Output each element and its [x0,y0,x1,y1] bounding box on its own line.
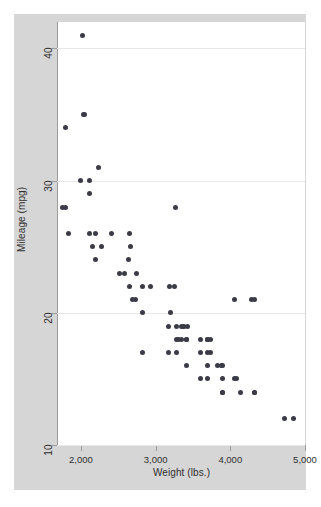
gridline-y-40 [57,48,305,49]
scatter-point [87,178,92,183]
gridline-y-30 [57,181,305,182]
x-tick-3000 [156,446,157,451]
y-axis-line [57,22,58,446]
graph-region: 10203040 2,0003,0004,0005,000 Mileage (m… [14,14,306,490]
x-tick-label-5000: 5,000 [293,454,317,465]
y-tick-label-20: 20 [43,312,54,346]
x-tick-label-2000: 2,000 [69,454,93,465]
y-tick-label-30: 30 [43,180,54,214]
scatter-point [174,350,179,355]
scatter-point [205,363,210,368]
scatter-point [173,205,178,210]
scatter-point [127,231,132,236]
scatter-point [167,284,172,289]
x-tick-label-4000: 4,000 [218,454,242,465]
y-tick-label-10: 10 [43,445,54,479]
x-tick-label-3000: 3,000 [144,454,168,465]
x-tick-5000 [305,446,306,451]
scatter-point [109,231,114,236]
scatter-point [198,350,203,355]
y-axis-title: Mileage (mpg) [16,187,27,252]
scatter-point [87,191,92,196]
scatter-point [185,324,190,329]
scatter-point [80,33,85,38]
scatter-point [220,390,225,395]
scatter-point [208,337,213,342]
scatter-point [96,165,101,170]
scatter-point [291,416,296,421]
y-tick-label-40: 40 [43,48,54,82]
scatter-point [66,231,71,236]
scatter-point [238,390,243,395]
x-tick-2000 [81,446,82,451]
scatter-point [198,337,203,342]
scatter-point [172,284,177,289]
scatter-point [148,284,153,289]
x-tick-4000 [230,446,231,451]
scatter-point [166,350,171,355]
scatter-point [133,297,138,302]
scatter-point [282,416,287,421]
chart-page: 10203040 2,0003,0004,0005,000 Mileage (m… [0,0,321,507]
gridline-y-20 [57,313,305,314]
x-axis-title: Weight (lbs.) [57,467,306,478]
scatter-point [166,324,171,329]
scatter-point [78,178,83,183]
gridline-y-10 [57,445,305,446]
scatter-point [127,284,132,289]
scatter-point [122,271,127,276]
